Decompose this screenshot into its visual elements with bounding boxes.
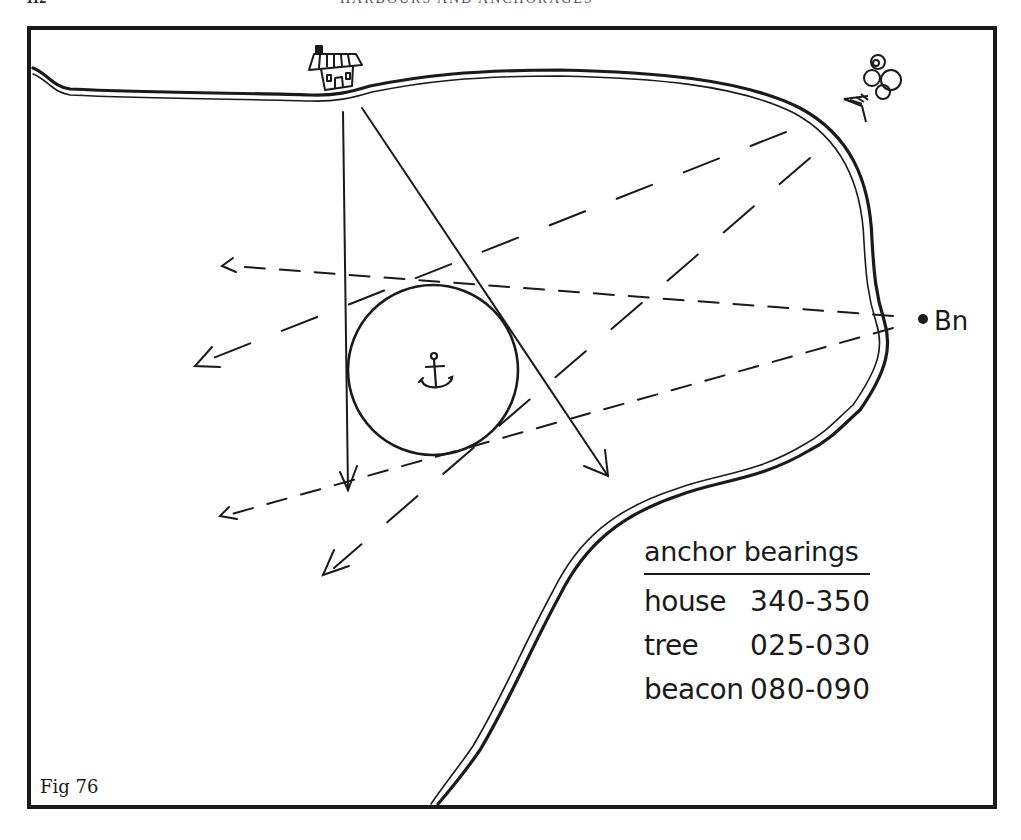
beacon-bearing-lines [220, 258, 893, 519]
legend-landmark: house [644, 585, 750, 619]
legend-landmark: beacon [644, 673, 750, 707]
legend-bearing-range: 025-030 [750, 629, 871, 663]
anchorage-diagram [0, 0, 1021, 840]
figure-caption: Fig 76 [40, 776, 98, 797]
house-bearing-lines [340, 108, 608, 490]
beacon-dot-icon [918, 314, 928, 324]
tree-icon [844, 55, 901, 122]
legend-landmark: tree [644, 629, 750, 663]
anchor-icon [419, 353, 452, 387]
legend-row: beacon 080-090 [644, 673, 871, 707]
anchor-bearings-legend: anchor bearings house 340-350 tree 025-0… [644, 536, 871, 707]
legend-title: anchor bearings [644, 536, 870, 575]
legend-row: tree 025-030 [644, 629, 871, 663]
beacon-label: Bn [934, 306, 968, 336]
legend-bearing-range: 080-090 [750, 673, 871, 707]
legend-row: house 340-350 [644, 585, 871, 619]
tree-bearing-lines [195, 132, 810, 575]
swing-circle [348, 285, 518, 455]
house-icon [309, 46, 362, 90]
book-page: 112 HARBOURS AND ANCHORAGES [0, 0, 1021, 840]
legend-bearing-range: 340-350 [750, 585, 871, 619]
